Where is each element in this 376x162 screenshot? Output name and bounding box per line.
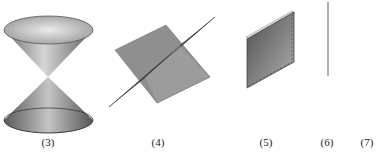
figure-label-7: (7) [361,136,374,148]
figure-label-4: (4) [152,136,165,148]
figure-label-3: (3) [42,136,55,148]
upper-rim [4,16,93,44]
lower-nappe [4,77,93,133]
plane-figure [246,11,295,88]
double-cone-figure [4,16,93,133]
figure-label-6: (6) [321,136,334,148]
intersecting-planes-figure [109,17,215,107]
figure-label-5: (5) [260,136,273,148]
